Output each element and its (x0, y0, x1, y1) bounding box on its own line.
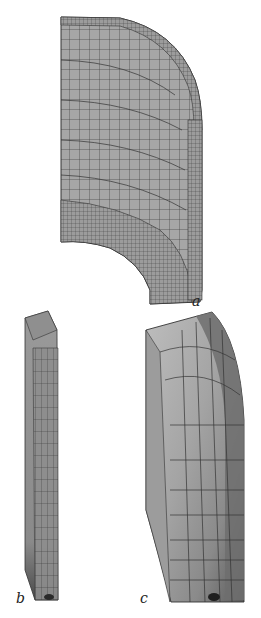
panel-b-mesh (25, 311, 58, 600)
panel-c-mesh (146, 312, 244, 602)
panel-a-label: a (192, 293, 200, 309)
panel-b-label: b (16, 590, 25, 606)
panel-a-mesh (61, 17, 202, 304)
panel-c-label: c (140, 590, 148, 606)
figure-canvas: a b c (0, 0, 261, 618)
